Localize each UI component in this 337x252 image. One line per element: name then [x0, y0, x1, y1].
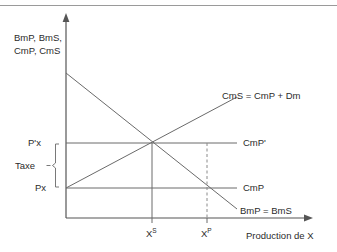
y-axis-label-line1: BmP, BmS,	[14, 32, 62, 43]
x-axis-title: Production de X	[246, 230, 314, 241]
x-tick-label-xp: XP	[201, 227, 212, 239]
y-axis-label-line2: CmP, CmS	[14, 45, 60, 56]
tax-brace	[47, 144, 60, 187]
economics-diagram: BmP, BmS, CmP, CmS P'x Px Taxe XS XP Pro…	[0, 0, 337, 252]
y-tick-label-p-prime-x: P'x	[28, 137, 41, 148]
y-axis-arrow-icon	[63, 13, 70, 22]
x-axis-arrow-icon	[304, 215, 313, 222]
x-tick-label-xp-sup: P	[207, 227, 211, 234]
x-tick-label-xs: XS	[146, 227, 157, 239]
axes	[63, 13, 313, 221]
line-label-cmp: CmP	[243, 182, 264, 193]
tax-bracket-label: Taxe	[15, 160, 35, 171]
curve-label-social-marginal-cost: CmS = CmP + Dm	[222, 90, 301, 101]
x-tick-label-xs-sup: S	[152, 227, 157, 234]
y-tick-label-px: Px	[35, 182, 46, 193]
curve-label-marginal-benefit: BmP = BmS	[240, 205, 292, 216]
figure-container: BmP, BmS, CmP, CmS P'x Px Taxe XS XP Pro…	[0, 0, 337, 252]
line-label-cmp-prime: CmP'	[243, 137, 266, 148]
